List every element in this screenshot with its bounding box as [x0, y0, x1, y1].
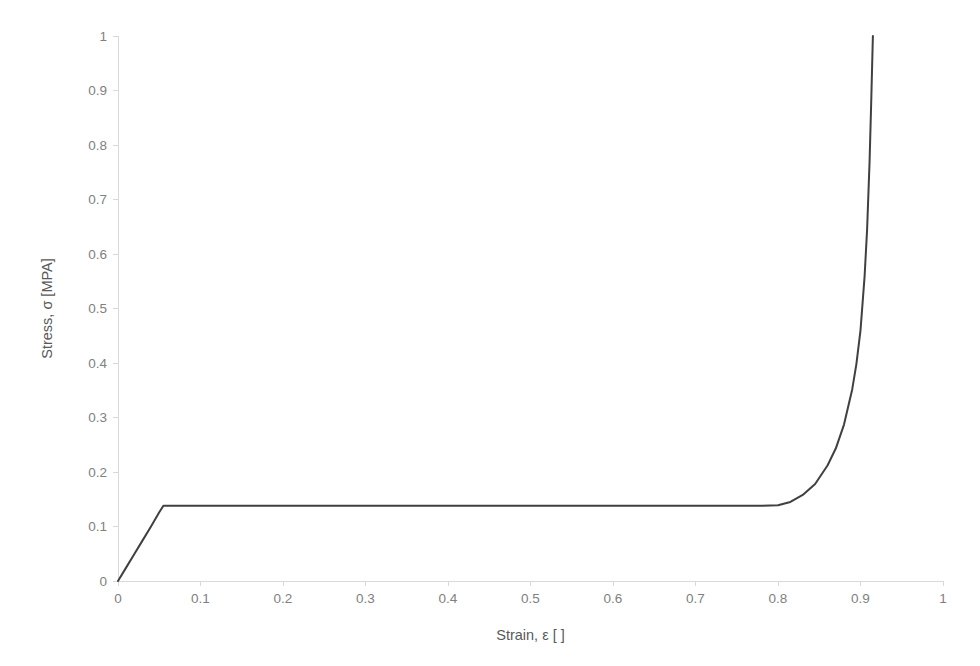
x-tick-label: 0.7 — [686, 591, 705, 606]
y-tick-label: 0.6 — [88, 247, 107, 262]
y-tick-label: 0.1 — [88, 519, 107, 534]
x-tick-label: 0 — [114, 591, 122, 606]
x-tick-label: 0.6 — [604, 591, 623, 606]
y-tick-label: 0.3 — [88, 410, 107, 425]
stress-strain-chart: 00.10.20.30.40.50.60.70.80.91 00.10.20.3… — [0, 0, 980, 666]
x-tick-label: 0.4 — [439, 591, 458, 606]
x-axis-title: Strain, ε [ ] — [496, 627, 565, 643]
x-tick-label: 0.2 — [274, 591, 293, 606]
y-tick-label: 0.5 — [88, 301, 107, 316]
y-tick-label: 0.8 — [88, 138, 107, 153]
x-tick-label: 0.1 — [191, 591, 210, 606]
y-tick-label: 0.7 — [88, 192, 107, 207]
y-tick-label: 0 — [99, 574, 107, 589]
x-tick-label: 1 — [939, 591, 947, 606]
x-tick-label: 0.9 — [851, 591, 870, 606]
y-tick-label: 1 — [99, 29, 107, 44]
chart-background — [0, 0, 980, 666]
x-tick-label: 0.3 — [356, 591, 375, 606]
y-tick-label: 0.2 — [88, 465, 107, 480]
y-axis-title: Stress, σ [MPA] — [39, 258, 55, 359]
chart-canvas: 00.10.20.30.40.50.60.70.80.91 00.10.20.3… — [0, 0, 980, 666]
y-tick-label: 0.9 — [88, 83, 107, 98]
x-tick-label: 0.5 — [521, 591, 540, 606]
x-tick-label: 0.8 — [769, 591, 788, 606]
y-tick-label: 0.4 — [88, 356, 107, 371]
